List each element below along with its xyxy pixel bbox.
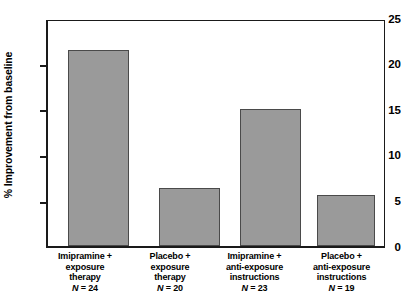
x-category-label-4: Placebo + anti-exposure instructions N =… — [300, 251, 383, 293]
x-category-label-3-sample-size: N = 23 — [213, 283, 296, 294]
n-value-3: = 23 — [250, 283, 267, 293]
n-value-2: = 20 — [166, 283, 183, 293]
y-axis-title-text: % Improvement from baseline — [2, 52, 14, 199]
x-category-label-4-line2: anti-exposure — [300, 262, 383, 273]
x-category-label-1-line3: therapy — [46, 272, 124, 283]
n-value-4: = 19 — [337, 283, 354, 293]
x-category-label-3-line3: instructions — [213, 272, 296, 283]
x-category-label-2-line1: Placebo + — [131, 251, 209, 262]
n-symbol-3: N — [242, 283, 248, 293]
x-category-label-1-line2: exposure — [46, 262, 124, 273]
x-category-label-4-line1: Placebo + — [300, 251, 383, 262]
plot-area — [46, 20, 385, 248]
x-category-label-4-line3: instructions — [300, 272, 383, 283]
n-symbol-4: N — [329, 283, 335, 293]
x-category-label-2-sample-size: N = 20 — [131, 283, 209, 294]
x-category-label-4-sample-size: N = 19 — [300, 283, 383, 294]
y-axis-title: % Improvement from baseline — [0, 0, 16, 250]
x-category-label-2-line2: exposure — [131, 262, 209, 273]
bar-placebo-anti-exposure-instructions — [317, 195, 375, 246]
x-category-label-2: Placebo + exposure therapy N = 20 — [131, 251, 209, 293]
bar-placebo-exposure-therapy — [159, 188, 220, 246]
x-category-label-1: Imipramine + exposure therapy N = 24 — [46, 251, 124, 293]
x-category-label-1-line1: Imipramine + — [46, 251, 124, 262]
n-symbol-1: N — [72, 283, 78, 293]
x-category-label-2-line3: therapy — [131, 272, 209, 283]
x-category-label-3-line2: anti-exposure — [213, 262, 296, 273]
x-category-label-3-line1: Imipramine + — [213, 251, 296, 262]
x-category-label-1-sample-size: N = 24 — [46, 283, 124, 294]
bar-chart-figure: % Improvement from baseline 25 20 15 10 … — [0, 0, 401, 303]
bar-imipramine-exposure-therapy — [68, 50, 129, 246]
n-value-1: = 24 — [81, 283, 98, 293]
bar-imipramine-anti-exposure-instructions — [240, 109, 301, 246]
n-symbol-2: N — [157, 283, 163, 293]
x-category-label-3: Imipramine + anti-exposure instructions … — [213, 251, 296, 293]
